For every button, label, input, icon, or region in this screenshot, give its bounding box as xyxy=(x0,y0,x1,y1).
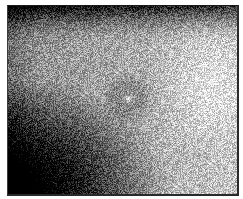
grayscale-texture-image xyxy=(8,6,237,194)
image-frame xyxy=(7,5,239,196)
